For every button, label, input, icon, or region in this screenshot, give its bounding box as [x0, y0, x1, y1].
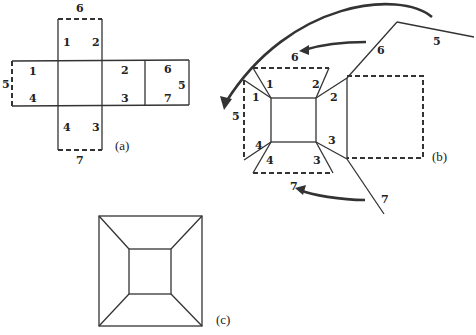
- label-a-3-right: 3: [121, 92, 129, 105]
- label-a-6-top: 6: [76, 2, 84, 15]
- figure: 6 1 2 5 1 4 2 3 6 5 7 4 3 7 (a): [0, 0, 476, 335]
- edge-7-line: [347, 159, 384, 214]
- diagram-canvas: 6 1 2 5 1 4 2 3 6 5 7 4 3 7 (a): [0, 0, 476, 335]
- panel-a-net: 6 1 2 5 1 4 2 3 6 5 7 4 3 7 (a): [2, 2, 189, 167]
- panel-b-folding: 5 6 6 1 2 1 5 4 4 3 2 3 7 7 (b): [220, 4, 474, 214]
- band-bottom-edge: [12, 105, 189, 106]
- label-b-4-bottom: 4: [266, 154, 274, 167]
- label-a-4-left: 4: [29, 92, 37, 105]
- arrow-to-7: [300, 190, 365, 200]
- big-arc-arrow: [226, 4, 432, 102]
- label-b-6-arrow: 6: [291, 51, 299, 64]
- label-a-3-bottom: 3: [92, 121, 100, 134]
- edge-6-line: [347, 22, 397, 78]
- label-a-2-right: 2: [121, 64, 129, 77]
- label-b-3-bottom: 3: [313, 154, 321, 167]
- caption-c: (c): [216, 312, 230, 327]
- label-a-4-bottom: 4: [63, 121, 71, 134]
- inner-square: [271, 98, 316, 142]
- caption-a: (a): [115, 138, 129, 153]
- label-b-5-far: 5: [433, 35, 441, 48]
- label-a-7-far: 7: [164, 92, 172, 105]
- arrow-to-6-head: [299, 45, 309, 55]
- right-flap-dashed-box: [347, 76, 423, 158]
- label-b-3-right: 3: [328, 134, 336, 147]
- panel-c-folded-box: (c): [99, 216, 230, 327]
- label-a-1-top: 1: [63, 36, 71, 49]
- label-b-7-far: 7: [381, 193, 389, 206]
- big-arc-arrowhead: [220, 96, 232, 110]
- label-b-5-left: 5: [232, 110, 240, 123]
- label-a-5-left: 5: [2, 78, 10, 91]
- label-a-1-left: 1: [29, 65, 37, 78]
- label-a-5-far: 5: [178, 79, 186, 92]
- label-b-1-top: 1: [266, 78, 274, 91]
- label-b-7-arrow: 7: [290, 180, 298, 193]
- label-a-6-far: 6: [164, 63, 172, 76]
- label-b-1-left: 1: [252, 91, 260, 104]
- label-b-4-left: 4: [255, 139, 263, 152]
- label-b-2-top: 2: [312, 78, 320, 91]
- label-b-6-far: 6: [377, 44, 385, 57]
- label-b-2-right: 2: [330, 91, 338, 104]
- arrow-to-6: [304, 42, 366, 50]
- band-top-edge: [12, 60, 189, 61]
- inner-square: [129, 249, 171, 294]
- caption-b: (b): [432, 149, 447, 164]
- label-a-2-top: 2: [92, 36, 100, 49]
- label-a-7-bottom: 7: [76, 154, 84, 167]
